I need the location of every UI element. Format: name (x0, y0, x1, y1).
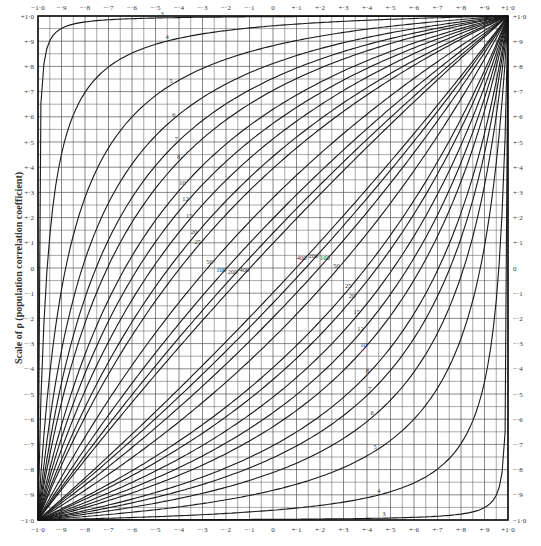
right-tick-label: +·6 (513, 113, 523, 121)
right-tick-label: −·5 (513, 391, 523, 399)
right-tick-label: +·3 (513, 189, 523, 197)
top-tick-label: +·1 (292, 4, 302, 12)
bottom-tick-label: −·4 (174, 526, 184, 534)
left-tick-label: +·4 (24, 164, 34, 172)
left-tick-label: −·8 (24, 466, 34, 474)
bottom-tick-label: +·6 (409, 526, 419, 534)
curve-label: 25 (345, 282, 352, 289)
curve-label: 400 (239, 266, 249, 273)
right-tick-label: +·8 (513, 63, 523, 71)
right-tick-label: +·1 (513, 239, 523, 247)
top-tick-label: −·6 (127, 4, 137, 12)
bottom-tick-label: −·6 (127, 526, 137, 534)
bottom-tick-label: −·3 (198, 526, 208, 534)
right-tick-label: +·7 (513, 88, 523, 96)
top-tick-label: +·6 (409, 4, 419, 12)
curve-label: 20 (349, 292, 356, 299)
top-tick-label: −·9 (57, 4, 67, 12)
top-tick-label: −·3 (198, 4, 208, 12)
curve-label: 4 (377, 487, 381, 494)
curve-label: 10 (360, 341, 367, 348)
bottom-tick-label: +·5 (386, 526, 396, 534)
right-axis-ticks: +1·0+·9+·8+·7+·6+·5+·4+·3+·2+·10−·1−·2−·… (513, 13, 527, 525)
left-tick-label: −·4 (24, 365, 34, 373)
left-tick-label: +·2 (24, 214, 34, 222)
bottom-tick-label: +·3 (339, 526, 349, 534)
curve-label: 50 (206, 258, 213, 265)
right-tick-label: −·8 (513, 466, 523, 474)
left-tick-label: −·1 (24, 290, 34, 298)
curve-label: 15 (354, 308, 361, 315)
top-tick-label: +·5 (386, 4, 396, 12)
bottom-tick-label: 0 (271, 526, 275, 534)
left-tick-label: −·6 (24, 416, 34, 424)
top-tick-label: 0 (271, 4, 275, 12)
right-tick-label: −·6 (513, 416, 523, 424)
top-tick-label: −·1 (245, 4, 255, 12)
curve-label: 100 (320, 254, 330, 261)
top-tick-label: −·4 (174, 4, 184, 12)
right-tick-label: +·5 (513, 139, 523, 147)
left-tick-label: +·5 (24, 139, 34, 147)
bottom-tick-label: −·2 (221, 526, 231, 534)
left-tick-label: −·3 (24, 340, 34, 348)
top-tick-label: −1·0 (31, 4, 45, 12)
top-tick-label: +·3 (339, 4, 349, 12)
left-tick-label: −·9 (24, 491, 34, 499)
right-tick-label: −·9 (513, 491, 523, 499)
top-tick-label: +·2 (315, 4, 325, 12)
left-tick-label: +·3 (24, 189, 34, 197)
curve-label: 400 (297, 254, 307, 261)
right-tick-label: +1·0 (513, 13, 527, 21)
right-tick-label: −·1 (513, 290, 523, 298)
curve-label: 5 (169, 77, 172, 84)
curve-label: 25 (195, 238, 202, 245)
curve-label: 5 (374, 443, 377, 450)
bottom-tick-label: −·7 (104, 526, 114, 534)
curve-label: 50 (333, 262, 340, 269)
left-tick-label: +·7 (24, 88, 34, 96)
right-tick-label: −·4 (513, 365, 523, 373)
right-tick-label: +·4 (513, 164, 523, 172)
left-tick-label: +·1 (24, 239, 34, 247)
curve-label: 12 (357, 325, 364, 332)
right-tick-label: −·2 (513, 315, 523, 323)
curve-label: 8 (177, 153, 180, 160)
bottom-tick-label: −·1 (245, 526, 255, 534)
right-tick-label: −1·0 (513, 517, 527, 525)
bottom-tick-label: −·9 (57, 526, 67, 534)
top-tick-label: +·7 (433, 4, 443, 12)
top-tick-label: +·4 (362, 4, 372, 12)
bottom-tick-label: −·8 (80, 526, 90, 534)
curve-label: 15 (186, 212, 193, 219)
curve-label: 20 (191, 228, 198, 235)
top-tick-label: −·2 (221, 4, 231, 12)
curve-label: 8 (366, 367, 369, 374)
top-tick-label: +·8 (456, 4, 466, 12)
right-tick-label: −·7 (513, 441, 523, 449)
bottom-tick-label: +·2 (315, 526, 325, 534)
top-tick-label: −·7 (104, 4, 114, 12)
left-tick-label: +·9 (24, 38, 34, 46)
right-tick-label: +·9 (513, 38, 523, 46)
left-tick-label: +1·0 (21, 13, 35, 21)
curve-label: 100 (216, 266, 226, 273)
right-tick-label: −·3 (513, 340, 523, 348)
bottom-tick-label: +·1 (292, 526, 302, 534)
y-axis-label: Scale of ρ (population correlation coeff… (13, 172, 25, 364)
curve-label: 4 (165, 33, 169, 40)
top-tick-label: +·9 (480, 4, 490, 12)
curve-label: 10 (179, 179, 186, 186)
curve-label: 200 (308, 252, 318, 259)
left-tick-label: −1·0 (21, 517, 35, 525)
top-axis-ticks: −1·0−·9−·8−·7−·6−·5−·4−·3−·2−·10+·1+·2+·… (31, 4, 515, 12)
bottom-tick-label: +·7 (433, 526, 443, 534)
curve-label: 12 (182, 195, 189, 202)
curve-label: 3 (382, 510, 385, 517)
left-tick-label: 0 (31, 265, 35, 273)
left-tick-label: −·2 (24, 315, 34, 323)
top-tick-label: −·5 (151, 4, 161, 12)
bottom-tick-label: +·4 (362, 526, 372, 534)
bottom-tick-label: −·5 (151, 526, 161, 534)
curve-label: 200 (228, 268, 238, 275)
